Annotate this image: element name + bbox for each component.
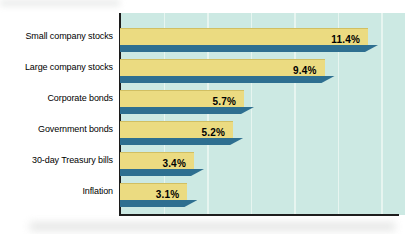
bar: 9.4%: [120, 59, 325, 76]
bar-chart: Small company stocksLarge company stocks…: [0, 0, 405, 234]
bar-value-label: 11.4%: [331, 32, 368, 48]
scan-artifact-top: [0, 0, 120, 6]
x-axis-line: [119, 214, 399, 216]
category-label: Inflation: [0, 183, 113, 200]
category-label: Large company stocks: [0, 59, 113, 76]
gridline: [381, 13, 383, 215]
bar: 5.7%: [120, 90, 244, 107]
category-label: Corporate bonds: [0, 90, 113, 107]
bar-value-label: 3.1%: [156, 187, 188, 203]
bar-value-label: 5.2%: [202, 125, 234, 141]
bar: 5.2%: [120, 121, 233, 138]
category-label: Small company stocks: [0, 28, 113, 45]
bar-value-label: 3.4%: [162, 156, 194, 172]
scan-artifact-bottom: [30, 223, 395, 230]
category-label: Government bonds: [0, 121, 113, 138]
category-label: 30-day Treasury bills: [0, 152, 113, 169]
bar-value-label: 9.4%: [293, 63, 325, 79]
bar-value-label: 5.7%: [212, 94, 244, 110]
bar: 11.4%: [120, 28, 368, 45]
bar: 3.4%: [120, 152, 194, 169]
bar: 3.1%: [120, 183, 187, 200]
